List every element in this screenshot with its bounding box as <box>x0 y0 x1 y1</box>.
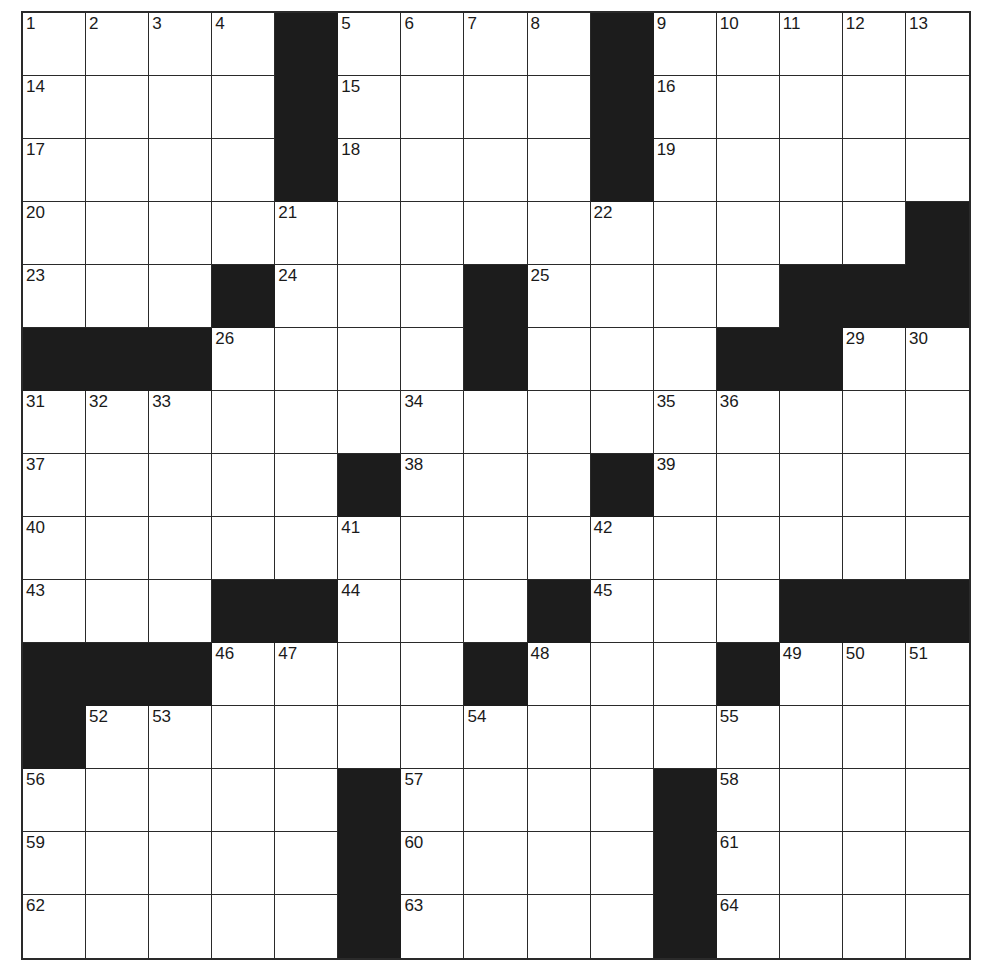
grid-cell[interactable] <box>86 895 149 958</box>
grid-cell[interactable] <box>654 265 717 328</box>
grid-cell[interactable]: 10 <box>717 13 780 76</box>
grid-cell[interactable] <box>906 76 969 139</box>
grid-cell[interactable]: 4 <box>212 13 275 76</box>
grid-cell[interactable]: 34 <box>401 391 464 454</box>
grid-cell[interactable] <box>528 328 591 391</box>
grid-cell[interactable] <box>86 517 149 580</box>
grid-cell[interactable] <box>528 139 591 202</box>
grid-cell[interactable] <box>654 202 717 265</box>
grid-cell[interactable] <box>401 580 464 643</box>
grid-cell[interactable]: 23 <box>23 265 86 328</box>
grid-cell[interactable] <box>275 391 338 454</box>
grid-cell[interactable] <box>275 832 338 895</box>
grid-cell[interactable] <box>843 454 906 517</box>
grid-cell[interactable] <box>780 202 843 265</box>
grid-cell[interactable] <box>780 769 843 832</box>
grid-cell[interactable] <box>401 265 464 328</box>
grid-cell[interactable]: 6 <box>401 13 464 76</box>
grid-cell[interactable]: 48 <box>528 643 591 706</box>
grid-cell[interactable] <box>528 769 591 832</box>
grid-cell[interactable] <box>401 76 464 139</box>
grid-cell[interactable] <box>86 454 149 517</box>
grid-cell[interactable]: 33 <box>149 391 212 454</box>
grid-cell[interactable] <box>464 769 527 832</box>
grid-cell[interactable] <box>401 517 464 580</box>
grid-cell[interactable] <box>591 391 654 454</box>
grid-cell[interactable] <box>654 517 717 580</box>
grid-cell[interactable]: 29 <box>843 328 906 391</box>
grid-cell[interactable] <box>843 517 906 580</box>
grid-cell[interactable] <box>401 706 464 769</box>
grid-cell[interactable]: 24 <box>275 265 338 328</box>
grid-cell[interactable]: 15 <box>338 76 401 139</box>
grid-cell[interactable] <box>149 265 212 328</box>
grid-cell[interactable] <box>149 832 212 895</box>
grid-cell[interactable] <box>275 706 338 769</box>
grid-cell[interactable] <box>401 202 464 265</box>
grid-cell[interactable]: 56 <box>23 769 86 832</box>
grid-cell[interactable] <box>906 454 969 517</box>
grid-cell[interactable]: 26 <box>212 328 275 391</box>
grid-cell[interactable] <box>464 76 527 139</box>
grid-cell[interactable] <box>654 328 717 391</box>
grid-cell[interactable]: 13 <box>906 13 969 76</box>
grid-cell[interactable] <box>149 580 212 643</box>
grid-cell[interactable] <box>843 832 906 895</box>
grid-cell[interactable]: 45 <box>591 580 654 643</box>
grid-cell[interactable] <box>86 580 149 643</box>
grid-cell[interactable]: 47 <box>275 643 338 706</box>
grid-cell[interactable] <box>906 895 969 958</box>
grid-cell[interactable] <box>654 706 717 769</box>
grid-cell[interactable]: 11 <box>780 13 843 76</box>
grid-cell[interactable] <box>780 706 843 769</box>
grid-cell[interactable]: 54 <box>464 706 527 769</box>
grid-cell[interactable] <box>906 391 969 454</box>
grid-cell[interactable] <box>843 139 906 202</box>
grid-cell[interactable] <box>464 517 527 580</box>
grid-cell[interactable] <box>212 391 275 454</box>
grid-cell[interactable]: 53 <box>149 706 212 769</box>
grid-cell[interactable] <box>591 706 654 769</box>
grid-cell[interactable] <box>780 517 843 580</box>
grid-cell[interactable] <box>780 76 843 139</box>
grid-cell[interactable]: 63 <box>401 895 464 958</box>
grid-cell[interactable] <box>86 202 149 265</box>
grid-cell[interactable] <box>149 517 212 580</box>
grid-cell[interactable] <box>906 517 969 580</box>
grid-cell[interactable]: 12 <box>843 13 906 76</box>
grid-cell[interactable]: 41 <box>338 517 401 580</box>
grid-cell[interactable]: 30 <box>906 328 969 391</box>
grid-cell[interactable] <box>591 769 654 832</box>
grid-cell[interactable]: 44 <box>338 580 401 643</box>
grid-cell[interactable]: 18 <box>338 139 401 202</box>
grid-cell[interactable] <box>528 202 591 265</box>
grid-cell[interactable] <box>86 832 149 895</box>
grid-cell[interactable] <box>149 895 212 958</box>
grid-cell[interactable]: 9 <box>654 13 717 76</box>
grid-cell[interactable] <box>86 139 149 202</box>
grid-cell[interactable]: 35 <box>654 391 717 454</box>
grid-cell[interactable] <box>212 706 275 769</box>
grid-cell[interactable]: 8 <box>528 13 591 76</box>
grid-cell[interactable] <box>843 769 906 832</box>
grid-cell[interactable]: 40 <box>23 517 86 580</box>
grid-cell[interactable] <box>780 454 843 517</box>
grid-cell[interactable] <box>464 832 527 895</box>
grid-cell[interactable] <box>843 895 906 958</box>
grid-cell[interactable] <box>906 139 969 202</box>
grid-cell[interactable] <box>591 328 654 391</box>
grid-cell[interactable] <box>464 454 527 517</box>
grid-cell[interactable] <box>464 202 527 265</box>
grid-cell[interactable] <box>212 454 275 517</box>
grid-cell[interactable] <box>275 328 338 391</box>
grid-cell[interactable]: 1 <box>23 13 86 76</box>
grid-cell[interactable] <box>338 328 401 391</box>
grid-cell[interactable] <box>906 769 969 832</box>
grid-cell[interactable] <box>212 76 275 139</box>
grid-cell[interactable] <box>843 76 906 139</box>
grid-cell[interactable] <box>591 265 654 328</box>
grid-cell[interactable]: 7 <box>464 13 527 76</box>
grid-cell[interactable] <box>528 706 591 769</box>
grid-cell[interactable] <box>591 832 654 895</box>
grid-cell[interactable] <box>780 139 843 202</box>
